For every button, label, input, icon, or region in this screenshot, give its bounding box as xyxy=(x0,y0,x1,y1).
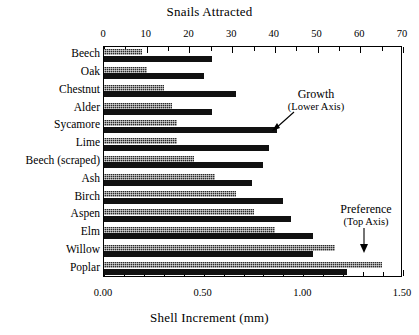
top-axis-tick-label: 0 xyxy=(83,28,123,39)
category-label: Oak xyxy=(0,66,100,77)
bar-preference xyxy=(104,209,254,215)
bottom-axis-major-tick xyxy=(403,270,404,276)
bar-preference xyxy=(104,120,177,126)
bar-preference xyxy=(104,156,194,162)
category-label: Aspen xyxy=(0,208,100,219)
bar-preference xyxy=(104,67,147,73)
bottom-axis-tick-label: 1.50 xyxy=(382,287,419,298)
bar-group xyxy=(104,67,403,83)
bar-group xyxy=(104,138,403,154)
bar-group xyxy=(104,174,403,190)
bar-group xyxy=(104,49,403,65)
bar-growth xyxy=(104,127,277,133)
bar-group xyxy=(104,156,403,172)
top-axis-tick-label: 40 xyxy=(254,28,294,39)
bar-group xyxy=(104,120,403,136)
bar-preference xyxy=(104,227,275,233)
category-label: Ash xyxy=(0,173,100,184)
bar-growth xyxy=(104,162,263,168)
bar-growth xyxy=(104,216,291,222)
bar-growth xyxy=(104,269,347,275)
category-label: Sycamore xyxy=(0,119,100,130)
category-label: Willow xyxy=(0,244,100,255)
category-label: Beech xyxy=(0,48,100,59)
top-axis-tick-label: 50 xyxy=(297,28,337,39)
annotation-growth-line1: Growth xyxy=(268,88,364,101)
annotation-preference-line2: (Top Axis) xyxy=(318,216,414,229)
bar-growth xyxy=(104,233,313,239)
top-axis-tick-label: 60 xyxy=(339,28,379,39)
bar-preference xyxy=(104,174,215,180)
bar-group xyxy=(104,262,403,278)
bottom-axis-title: Shell Increment (mm) xyxy=(0,310,419,326)
top-axis-tick-label: 30 xyxy=(211,28,251,39)
annotation-preference: Preference (Top Axis) xyxy=(318,203,414,228)
bar-growth xyxy=(104,109,212,115)
category-axis-labels: BeechOakChestnutAlderSycamoreLimeBeech (… xyxy=(0,46,100,277)
annotation-growth-arrow xyxy=(270,110,296,132)
category-label: Elm xyxy=(0,226,100,237)
bar-growth xyxy=(104,73,204,79)
chart-figure: Snails Attracted BeechOakChestnutAlderSy… xyxy=(0,0,419,335)
bar-growth xyxy=(104,91,236,97)
category-label: Chestnut xyxy=(0,84,100,95)
bottom-axis-tick-label: 0.50 xyxy=(183,287,223,298)
annotation-preference-line1: Preference xyxy=(318,203,414,216)
bar-preference xyxy=(104,191,236,197)
top-axis-tick-label: 10 xyxy=(126,28,166,39)
annotation-preference-arrow xyxy=(357,228,371,254)
category-label: Alder xyxy=(0,102,100,113)
bottom-axis-tick-label: 0.00 xyxy=(83,287,123,298)
top-axis-title: Snails Attracted xyxy=(0,4,419,20)
category-label: Lime xyxy=(0,137,100,148)
bar-preference xyxy=(104,49,142,55)
category-label: Beech (scraped) xyxy=(0,155,100,166)
category-label: Birch xyxy=(0,191,100,202)
bar-growth xyxy=(104,251,313,257)
top-axis-major-tick xyxy=(403,47,404,53)
bar-preference xyxy=(104,262,382,268)
bar-preference xyxy=(104,103,172,109)
top-axis-tick-label: 20 xyxy=(168,28,208,39)
bar-preference xyxy=(104,138,177,144)
bar-growth xyxy=(104,180,252,186)
bar-preference xyxy=(104,85,164,91)
bar-preference xyxy=(104,245,335,251)
bar-growth xyxy=(104,145,269,151)
bar-growth xyxy=(104,198,283,204)
category-label: Poplar xyxy=(0,262,100,273)
bottom-axis-tick-label: 1.00 xyxy=(282,287,322,298)
bar-growth xyxy=(104,56,212,62)
top-axis-tick-label: 70 xyxy=(382,28,419,39)
